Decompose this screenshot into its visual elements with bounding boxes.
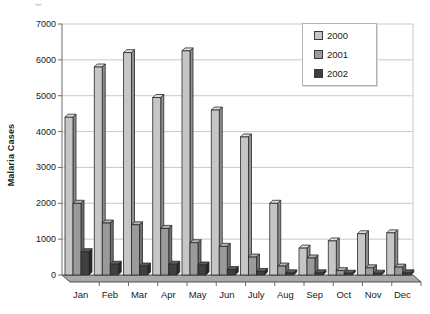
bar-front-face bbox=[219, 246, 227, 275]
bar-front-face bbox=[102, 223, 110, 275]
x-tick-label: Dec bbox=[394, 289, 411, 300]
bar-front-face bbox=[249, 257, 257, 275]
bar-front-face bbox=[299, 248, 307, 275]
bar-front-face bbox=[358, 234, 366, 275]
bar-2002-Mar bbox=[140, 263, 151, 275]
bar-front-face bbox=[278, 266, 286, 275]
legend-item-2002: 2002 bbox=[303, 67, 376, 81]
y-tick-label: 0 bbox=[22, 270, 56, 280]
y-tick-label: 2000 bbox=[22, 198, 56, 208]
bar-front-face bbox=[344, 273, 352, 275]
bar-front-face bbox=[336, 271, 344, 275]
x-tick-label: Mar bbox=[131, 289, 147, 300]
bar-front-face bbox=[73, 203, 81, 275]
bar-front-face bbox=[161, 228, 169, 275]
bar-front-face bbox=[315, 273, 323, 275]
x-tick-label: Feb bbox=[102, 289, 118, 300]
x-tick-label: July bbox=[248, 289, 265, 300]
bar-side-face bbox=[89, 249, 92, 275]
bar-front-face bbox=[65, 117, 73, 275]
x-tick-label: Sep bbox=[306, 289, 323, 300]
bar-side-face bbox=[249, 134, 252, 275]
legend-label-2000: 2000 bbox=[327, 31, 348, 41]
y-tick-label: 1000 bbox=[22, 234, 56, 244]
bar-front-face bbox=[270, 203, 278, 275]
legend-item-2000: 2000 bbox=[303, 29, 376, 43]
bar-front-face bbox=[211, 110, 219, 275]
bar-2000-Aug bbox=[270, 200, 281, 275]
bar-2000-July bbox=[241, 134, 252, 275]
bar-2002-Apr bbox=[169, 261, 180, 275]
y-tick-label: 4000 bbox=[22, 127, 56, 137]
y-tick-label: 7000 bbox=[22, 19, 56, 29]
bar-2002-May bbox=[198, 262, 209, 275]
bar-2002-Jun bbox=[227, 267, 238, 275]
bar-front-face bbox=[198, 265, 206, 275]
x-tick-label: May bbox=[189, 289, 207, 300]
legend-label-2001: 2001 bbox=[327, 50, 348, 60]
floor bbox=[62, 275, 421, 282]
bar-front-face bbox=[395, 267, 403, 275]
legend-swatch-2002 bbox=[314, 69, 323, 78]
legend-label-2002: 2002 bbox=[327, 69, 348, 79]
bar-front-face bbox=[227, 270, 235, 275]
x-tick-label: Jun bbox=[219, 289, 234, 300]
bar-front-face bbox=[286, 273, 294, 275]
bar-2002-Jan bbox=[81, 249, 92, 275]
bar-front-face bbox=[94, 67, 102, 275]
y-tick-label: 6000 bbox=[22, 55, 56, 65]
legend-swatch-2000 bbox=[314, 31, 323, 40]
bar-front-face bbox=[124, 53, 132, 275]
bar-side-face bbox=[118, 261, 121, 275]
x-tick-label: Nov bbox=[365, 289, 382, 300]
bar-front-face bbox=[307, 258, 315, 275]
x-tick-label: Jan bbox=[73, 289, 88, 300]
bar-front-face bbox=[403, 273, 411, 275]
bar-2002-Feb bbox=[110, 261, 121, 275]
legend: 2000 2001 2002 bbox=[302, 23, 377, 86]
bar-front-face bbox=[366, 268, 374, 275]
bar-front-face bbox=[374, 273, 382, 275]
legend-swatch-2001 bbox=[314, 50, 323, 59]
x-tick-label: Oct bbox=[336, 289, 351, 300]
bar-front-face bbox=[153, 98, 161, 275]
bar-front-face bbox=[257, 271, 265, 275]
bar-front-face bbox=[241, 137, 249, 275]
bar-front-face bbox=[110, 264, 118, 275]
bar-front-face bbox=[387, 233, 395, 275]
bar-front-face bbox=[81, 252, 89, 275]
y-axis-title: Malaria Cases bbox=[6, 110, 16, 200]
bar-2002-July bbox=[257, 268, 268, 275]
bar-front-face bbox=[328, 241, 336, 275]
bar-front-face bbox=[140, 266, 148, 275]
x-tick-label: Apr bbox=[161, 289, 176, 300]
bar-front-face bbox=[190, 243, 198, 275]
bar-side-face bbox=[177, 261, 180, 275]
y-tick-label: 5000 bbox=[22, 91, 56, 101]
bar-front-face bbox=[182, 51, 190, 275]
malaria-cases-chart: Malaria Cases 01000200030004000500060007… bbox=[0, 0, 430, 314]
bar-front-face bbox=[169, 264, 177, 275]
y-tick-label: 3000 bbox=[22, 162, 56, 172]
bar-front-face bbox=[132, 225, 140, 275]
legend-item-2001: 2001 bbox=[303, 48, 376, 62]
x-tick-label: Aug bbox=[277, 289, 294, 300]
